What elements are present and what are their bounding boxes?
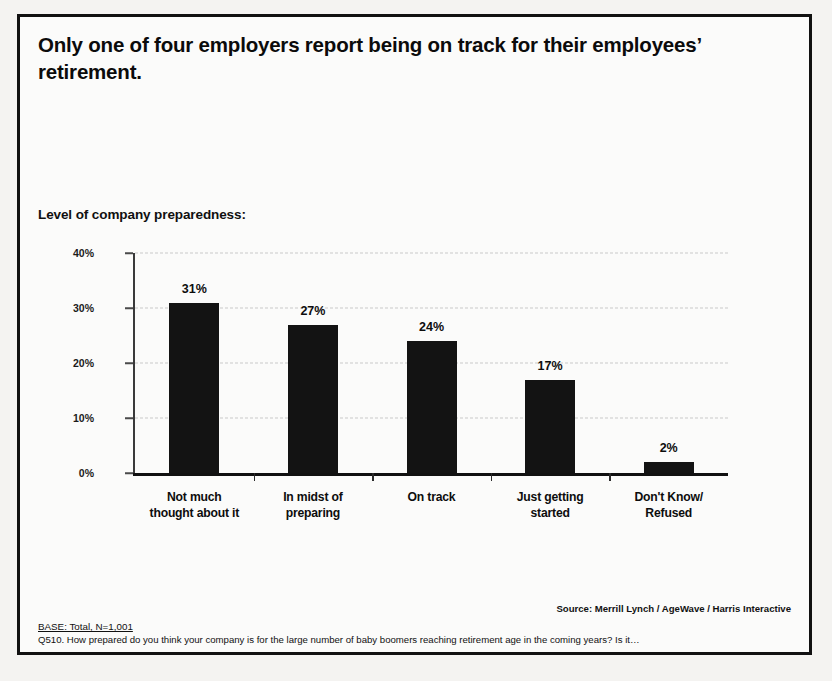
x-axis-label: Don't Know/Refused xyxy=(594,489,744,521)
bar xyxy=(288,325,338,474)
y-tick-mark xyxy=(125,472,133,474)
gridline xyxy=(135,253,728,254)
y-tick-mark xyxy=(125,417,133,419)
chart-subtitle: Level of company preparedness: xyxy=(38,207,246,222)
slide-frame: Only one of four employers report being … xyxy=(17,14,812,655)
y-tick-label: 20% xyxy=(73,357,94,369)
base-note: BASE: Total, N=1,001 xyxy=(38,621,133,632)
bar-value-label: 17% xyxy=(538,359,563,373)
bar-value-label: 27% xyxy=(300,304,325,318)
bar-value-label: 2% xyxy=(660,441,678,455)
bar-value-label: 24% xyxy=(419,320,444,334)
x-tick-mark xyxy=(254,473,256,481)
x-tick-mark xyxy=(372,473,374,481)
y-tick-mark xyxy=(125,362,133,364)
bar xyxy=(169,303,219,474)
x-tick-mark xyxy=(609,473,611,481)
bar-chart: 0%10%20%30%40% 31%27%24%17%2% Not muchth… xyxy=(116,253,728,473)
question-note: Q510. How prepared do you think your com… xyxy=(38,634,640,645)
y-tick-label: 0% xyxy=(79,467,94,479)
y-tick-label: 40% xyxy=(73,247,94,259)
bar xyxy=(407,341,457,473)
bar xyxy=(525,380,575,474)
x-axis-label-line: preparing xyxy=(238,505,388,521)
bar-value-label: 31% xyxy=(182,282,207,296)
x-axis-line xyxy=(133,473,728,476)
gridline xyxy=(135,308,728,309)
y-tick-label: 30% xyxy=(73,302,94,314)
y-tick-mark xyxy=(125,252,133,254)
x-tick-mark xyxy=(491,473,493,481)
x-axis-label-line: Don't Know/ xyxy=(594,489,744,505)
page-title: Only one of four employers report being … xyxy=(38,31,738,85)
y-tick-mark xyxy=(125,307,133,309)
source-note: Source: Merrill Lynch / AgeWave / Harris… xyxy=(556,603,791,614)
bar xyxy=(644,462,694,473)
y-tick-label: 10% xyxy=(73,412,94,424)
x-axis-label-line: Refused xyxy=(594,505,744,521)
